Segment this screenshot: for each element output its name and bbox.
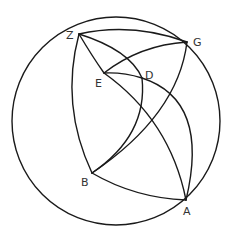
label-D: D (145, 69, 153, 82)
arc-Z-B (72, 34, 92, 173)
label-E: E (95, 77, 102, 90)
label-A: A (183, 205, 191, 218)
outer-circle (12, 17, 220, 225)
arc-B-A (92, 173, 186, 200)
arc-D-B (92, 78, 143, 173)
arc-E-D-A (104, 73, 192, 200)
label-Z: Z (66, 29, 74, 42)
spherical-diagram: Z G E D B A (0, 0, 230, 239)
arc-G-B (92, 42, 187, 173)
label-G: G (193, 36, 202, 49)
label-B: B (81, 176, 89, 189)
